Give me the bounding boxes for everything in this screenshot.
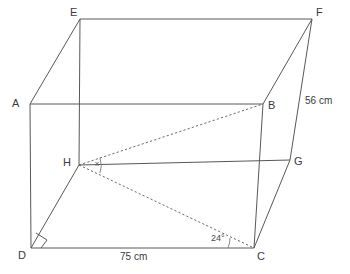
edge-AE bbox=[30, 19, 80, 104]
geometry-diagram: A B C D E F G H x 24° 75 cm 56 cm bbox=[0, 0, 350, 274]
cuboid-svg bbox=[0, 0, 350, 274]
dimension-label-width: 75 cm bbox=[120, 252, 147, 262]
edge-GC bbox=[254, 160, 290, 248]
vertex-label-A: A bbox=[12, 98, 19, 109]
vertex-label-H: H bbox=[63, 157, 71, 168]
vertex-label-G: G bbox=[294, 156, 303, 167]
right-angle-marker-D bbox=[36, 233, 47, 248]
edge-HG bbox=[79, 160, 290, 165]
angle-marker-x bbox=[100, 158, 101, 173]
edge-AD bbox=[30, 104, 31, 248]
angle-label-x: x bbox=[95, 160, 99, 168]
vertex-label-F: F bbox=[316, 7, 323, 18]
cuboid-dashed-edges bbox=[79, 104, 263, 248]
dimension-label-height: 56 cm bbox=[305, 96, 332, 106]
vertex-label-B: B bbox=[268, 100, 275, 111]
vertex-label-C: C bbox=[257, 251, 265, 262]
edge-FB bbox=[263, 19, 312, 104]
edge-EH bbox=[79, 19, 80, 165]
vertex-label-E: E bbox=[70, 7, 77, 18]
edge-FG bbox=[290, 19, 312, 160]
angle-label-24: 24° bbox=[211, 234, 225, 243]
diagonal-HC bbox=[79, 165, 254, 248]
edge-BC bbox=[254, 104, 263, 248]
diagonal-HB bbox=[79, 104, 263, 165]
vertex-label-D: D bbox=[18, 250, 26, 261]
angle-marker-24 bbox=[228, 238, 230, 248]
edge-DH bbox=[31, 165, 79, 248]
cuboid-solid-edges bbox=[30, 19, 312, 248]
